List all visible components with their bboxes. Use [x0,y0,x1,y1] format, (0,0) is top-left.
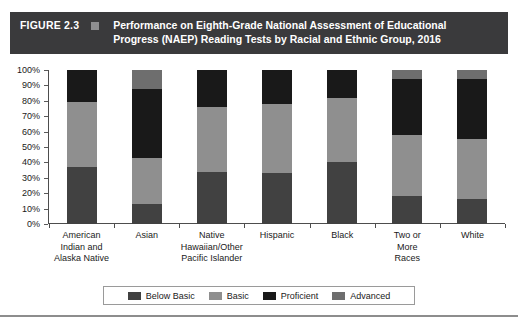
bar-segment[interactable] [327,70,357,98]
x-axis-label-line: Races [375,253,440,265]
x-axis-category-label: AmericanIndian andAlaska Native [49,230,114,265]
x-axis-label-line: Alaska Native [49,253,114,265]
legend-label: Below Basic [146,291,195,301]
figure-container: FIGURE 2.3 Performance on Eighth-Grade N… [0,0,518,329]
figure-header: FIGURE 2.3 Performance on Eighth-Grade N… [10,12,508,54]
bar-segment[interactable] [457,139,487,199]
bar-segment[interactable] [197,172,227,224]
bars-area [49,70,505,224]
legend-swatch-icon [332,292,345,300]
bar-segment[interactable] [457,79,487,139]
bar-segment[interactable] [392,135,422,197]
y-axis-tick-label: 70% [22,111,40,121]
x-axis-label-line: More [375,242,440,254]
y-axis-tick-label: 90% [22,80,40,90]
bar-segment[interactable] [67,167,97,224]
bar-segment[interactable] [392,79,422,134]
legend-item[interactable]: Advanced [332,291,390,301]
x-axis-category-label: Hispanic [244,230,309,242]
x-axis-labels: AmericanIndian andAlaska NativeAsianNati… [49,230,505,278]
bar-segment[interactable] [457,70,487,79]
x-axis-label-line: American [49,230,114,242]
chart-legend: Below BasicBasicProficientAdvanced [103,286,415,305]
stacked-bar[interactable] [197,70,227,224]
y-axis-tick-label: 20% [22,188,40,198]
y-axis-tick-label: 100% [17,65,40,75]
x-axis-label-line: Asian [114,230,179,242]
x-axis-tick [244,224,245,228]
y-axis-tick [44,224,48,225]
bar-group[interactable] [375,70,440,224]
bar-segment[interactable] [392,196,422,224]
y-axis-tick-label: 40% [22,157,40,167]
legend-item[interactable]: Basic [209,291,249,301]
bar-segment[interactable] [132,70,162,88]
bar-segment[interactable] [392,70,422,79]
legend-swatch-icon [209,292,222,300]
bar-group[interactable] [179,70,244,224]
bar-group[interactable] [310,70,375,224]
x-axis-tick [310,224,311,228]
x-axis-label-line: Native [179,230,244,242]
bar-segment[interactable] [327,98,357,163]
header-marker-icon [91,22,99,30]
bar-group[interactable] [114,70,179,224]
legend-swatch-icon [263,292,276,300]
x-axis-label-line: Hawaiian/Other [179,242,244,254]
bar-segment[interactable] [197,107,227,172]
bar-segment[interactable] [197,70,227,107]
x-axis-tick [505,224,506,228]
legend-label: Advanced [350,291,390,301]
x-axis-category-label: NativeHawaiian/OtherPacific Islander [179,230,244,265]
bar-group[interactable] [440,70,505,224]
x-axis-label-line: Indian and [49,242,114,254]
bar-segment[interactable] [262,173,292,224]
legend-item[interactable]: Proficient [263,291,319,301]
bar-segment[interactable] [132,204,162,224]
stacked-bar[interactable] [67,70,97,224]
x-axis-category-label: Black [310,230,375,242]
chart-plot-area: 0%10%20%30%40%50%60%70%80%90%100% Americ… [10,62,508,280]
x-axis-category-label: White [440,230,505,242]
x-axis-label-line: Pacific Islander [179,253,244,265]
y-axis-labels: 0%10%20%30%40%50%60%70%80%90%100% [10,62,44,216]
stacked-bar[interactable] [392,70,422,224]
bar-segment[interactable] [67,102,97,167]
y-axis-tick-label: 50% [22,142,40,152]
bar-segment[interactable] [67,70,97,102]
x-axis-tick [114,224,115,228]
stacked-bar[interactable] [262,70,292,224]
x-axis-category-label: Asian [114,230,179,242]
x-axis-tick [179,224,180,228]
stacked-bar[interactable] [327,70,357,224]
y-axis-tick-label: 10% [22,204,40,214]
legend-swatch-icon [128,292,141,300]
stacked-bar[interactable] [457,70,487,224]
bar-segment[interactable] [132,158,162,204]
bar-segment[interactable] [457,199,487,224]
x-axis-tick [49,224,50,228]
legend-label: Proficient [281,291,319,301]
y-axis-tick-label: 60% [22,127,40,137]
bar-group[interactable] [49,70,114,224]
x-axis-label-line: White [440,230,505,242]
bar-segment[interactable] [262,104,292,173]
bar-group[interactable] [244,70,309,224]
bar-segment[interactable] [262,70,292,104]
x-axis-category-label: Two orMoreRaces [375,230,440,265]
figure-title: Performance on Eighth-Grade National Ass… [113,18,473,46]
x-axis-label-line: Two or [375,230,440,242]
bar-segment[interactable] [132,89,162,158]
bar-segment[interactable] [327,162,357,224]
y-axis-tick-label: 30% [22,173,40,183]
y-axis-tick-label: 80% [22,96,40,106]
y-axis-tick-label: 0% [27,219,40,229]
footer-divider [0,315,518,317]
figure-number: FIGURE 2.3 [20,18,79,31]
legend-item[interactable]: Below Basic [128,291,195,301]
x-axis-label-line: Hispanic [244,230,309,242]
x-axis-label-line: Black [310,230,375,242]
x-axis-tick [440,224,441,228]
legend-label: Basic [227,291,249,301]
stacked-bar[interactable] [132,70,162,224]
